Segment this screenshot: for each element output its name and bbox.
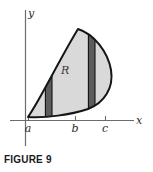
right-strip bbox=[88, 10, 95, 130]
figure-plot bbox=[0, 0, 153, 172]
x-tick-label-a: a bbox=[21, 123, 35, 134]
figure-container: y x a b c R FIGURE 9 bbox=[0, 0, 153, 172]
left-strip bbox=[45, 10, 52, 130]
x-tick-label-b: b bbox=[68, 123, 82, 134]
y-axis-label: y bbox=[28, 8, 34, 19]
region-label: R bbox=[61, 65, 69, 76]
x-axis-label: x bbox=[136, 115, 142, 126]
x-tick-label-c: c bbox=[98, 123, 112, 134]
figure-caption: FIGURE 9 bbox=[4, 155, 52, 165]
